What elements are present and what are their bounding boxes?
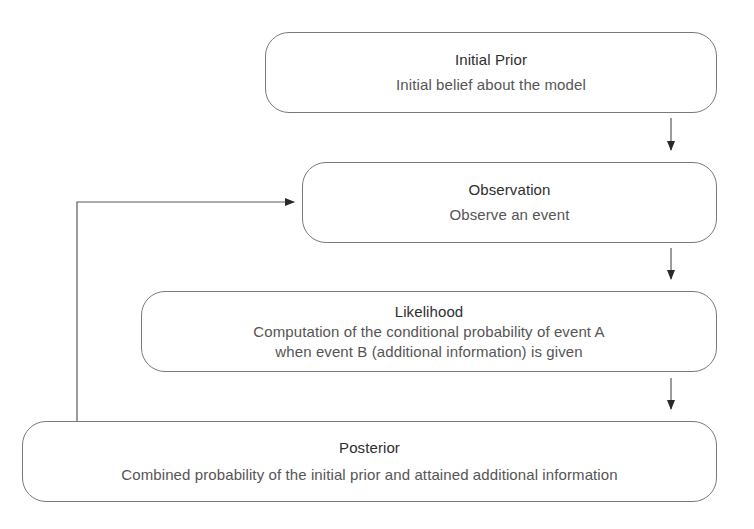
node-title: Likelihood — [395, 302, 464, 322]
node-description: Initial belief about the model — [396, 75, 586, 95]
node-likelihood: Likelihood Computation of the conditiona… — [141, 291, 717, 372]
node-description: Combined probability of the initial prio… — [121, 465, 617, 485]
node-observation: Observation Observe an event — [302, 162, 717, 243]
node-posterior: Posterior Combined probability of the in… — [22, 421, 717, 502]
node-description: Computation of the conditional probabili… — [253, 322, 604, 362]
node-title: Observation — [469, 180, 551, 200]
node-title: Posterior — [339, 438, 400, 458]
node-title: Initial Prior — [455, 50, 527, 70]
bayesian-update-flowchart: Initial Prior Initial belief about the m… — [0, 0, 754, 529]
node-initial-prior: Initial Prior Initial belief about the m… — [265, 32, 717, 113]
node-description: Observe an event — [449, 205, 569, 225]
